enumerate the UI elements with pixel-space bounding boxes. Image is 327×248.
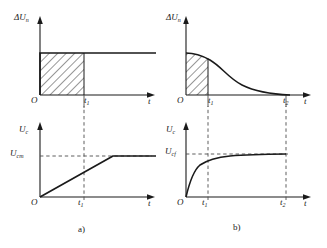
curve-ramp bbox=[40, 156, 156, 197]
y-axis bbox=[37, 122, 43, 197]
x-tick-t1: t1 bbox=[84, 96, 90, 105]
x-axis-label: t bbox=[304, 199, 307, 208]
x-axis-label: t bbox=[304, 97, 307, 106]
x-axis bbox=[40, 194, 155, 200]
caption-a: a) bbox=[78, 224, 85, 234]
hatched-region bbox=[40, 53, 84, 95]
y-axis-label: ΔUn bbox=[14, 13, 29, 22]
y-axis bbox=[183, 122, 189, 197]
y-level-ucf: Ucf bbox=[165, 147, 176, 156]
panel-bottom-right-plot bbox=[164, 112, 327, 216]
x-tick-t1: t1 bbox=[202, 198, 208, 207]
origin-label: O bbox=[31, 198, 38, 207]
panel-top-right: ΔUn O t1 t2 t bbox=[164, 0, 327, 112]
x-axis-label: t bbox=[148, 199, 151, 208]
x-tick-t2: t2 bbox=[280, 198, 286, 207]
x-axis-label: t bbox=[148, 97, 151, 106]
panel-bottom-right: Uc Ucf O t1 t2 t bbox=[164, 112, 327, 216]
origin-label: O bbox=[177, 198, 184, 207]
y-axis-label: Uc bbox=[166, 125, 175, 134]
y-axis-label: ΔUn bbox=[166, 13, 181, 22]
x-tick-t1: t1 bbox=[208, 96, 214, 105]
origin-label: O bbox=[31, 96, 38, 105]
x-tick-t1: t1 bbox=[78, 198, 84, 207]
curve-charging bbox=[186, 154, 286, 197]
panel-bottom-left: Uc Ucm O t1 t bbox=[0, 112, 164, 216]
y-axis-label: Uc bbox=[19, 125, 28, 134]
panel-top-left: ΔUn O t1 t bbox=[0, 0, 164, 112]
figure-container: ΔUn O t1 t bbox=[0, 0, 327, 248]
origin-label: O bbox=[177, 96, 184, 105]
hatched-region bbox=[186, 53, 208, 95]
caption-b: b) bbox=[233, 222, 241, 232]
panel-top-right-plot bbox=[164, 0, 327, 112]
y-level-ucm: Ucm bbox=[10, 149, 24, 158]
